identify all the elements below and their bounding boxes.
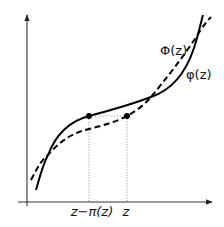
point-on-phi: [86, 113, 92, 119]
curve-phi: [36, 15, 203, 190]
tick-label-z-minus-pi: z−π(z): [70, 204, 114, 219]
point-on-Phi: [124, 113, 130, 119]
tick-label-z: z: [122, 204, 131, 219]
curve-Phi: [31, 17, 211, 180]
label-Phi: Φ(z): [160, 43, 187, 58]
label-phi: φ(z): [186, 67, 212, 82]
function-diagram: Φ(z) φ(z) z−π(z) z: [0, 0, 224, 227]
